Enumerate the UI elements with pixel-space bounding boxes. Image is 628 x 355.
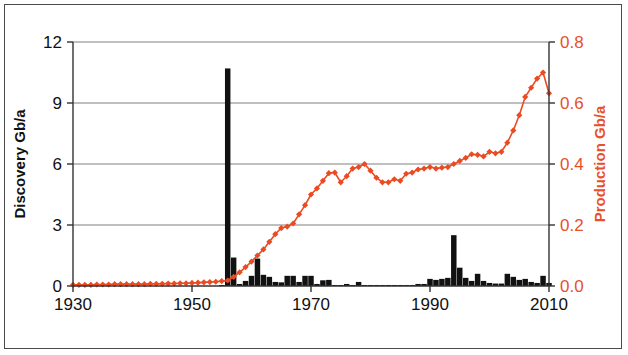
production-marker: [451, 161, 457, 167]
production-marker: [82, 282, 88, 288]
production-marker: [88, 282, 94, 288]
discovery-bar: [326, 280, 331, 286]
discovery-bar: [475, 274, 480, 286]
discovery-bar: [231, 258, 236, 286]
y-tick-label-left: 9: [53, 94, 62, 113]
discovery-bar: [451, 235, 456, 286]
y-tick-label-right: 0.2: [560, 216, 584, 235]
discovery-bar: [243, 281, 248, 286]
x-tick-label: 1970: [292, 295, 330, 314]
discovery-bar: [463, 278, 468, 286]
production-marker: [385, 179, 391, 185]
discovery-bar: [255, 259, 260, 286]
discovery-bar: [517, 280, 522, 286]
chart-plot-area: 0369120.00.20.40.60.81930195019701990201…: [0, 0, 628, 355]
discovery-bar: [267, 277, 272, 286]
chart-svg: 0369120.00.20.40.60.81930195019701990201…: [0, 0, 628, 355]
production-marker: [433, 165, 439, 171]
y-tick-label-left: 3: [53, 216, 62, 235]
production-polyline: [73, 73, 549, 285]
discovery-bar: [505, 274, 510, 286]
production-marker: [189, 280, 195, 286]
production-marker: [76, 282, 82, 288]
production-marker: [391, 176, 397, 182]
production-marker: [427, 164, 433, 170]
discovery-bar: [469, 281, 474, 286]
discovery-bar: [249, 276, 254, 286]
y-tick-label-left: 0: [53, 277, 62, 296]
production-marker: [475, 152, 481, 158]
discovery-bar: [439, 279, 444, 286]
production-marker: [415, 166, 421, 172]
x-tick-label: 1990: [411, 295, 449, 314]
production-marker: [492, 150, 498, 156]
y-tick-label-right: 0.6: [560, 94, 584, 113]
discovery-bar: [433, 280, 438, 286]
production-marker: [510, 127, 516, 133]
discovery-bar: [261, 275, 266, 286]
production-marker: [195, 280, 201, 286]
production-marker: [516, 112, 522, 118]
production-marker: [356, 164, 362, 170]
y-tick-label-left: 6: [53, 155, 62, 174]
production-marker: [201, 279, 207, 285]
production-marker: [439, 165, 445, 171]
axes: [67, 42, 555, 292]
discovery-bar: [457, 268, 462, 286]
discovery-bar: [427, 279, 432, 286]
discovery-bar: [302, 276, 307, 286]
chart-figure: 0369120.00.20.40.60.81930195019701990201…: [0, 0, 628, 355]
production-marker: [409, 169, 415, 175]
production-marker: [445, 164, 451, 170]
x-tick-label: 1950: [173, 295, 211, 314]
y-axis-title-left: Discovery Gb/a: [11, 109, 28, 219]
discovery-bar: [511, 277, 516, 286]
production-line-markers: [70, 69, 552, 287]
production-marker: [284, 223, 290, 229]
y-axis-title-right: Production Gb/a: [591, 105, 608, 222]
discovery-bar: [540, 276, 545, 286]
production-line-series: [73, 73, 549, 285]
production-marker: [219, 278, 225, 284]
production-marker: [457, 158, 463, 164]
discovery-bar: [225, 68, 230, 286]
production-marker: [207, 279, 213, 285]
x-tick-label: 2010: [530, 295, 568, 314]
y-tick-label-right: 0.8: [560, 33, 584, 52]
discovery-bars-series: [219, 68, 552, 286]
y-tick-label-right: 0.0: [560, 277, 584, 296]
discovery-bar: [522, 279, 527, 286]
production-marker: [421, 165, 427, 171]
y-tick-label-left: 12: [43, 33, 62, 52]
discovery-bar: [284, 276, 289, 286]
production-marker: [213, 279, 219, 285]
discovery-bar: [290, 276, 295, 286]
discovery-bar: [445, 278, 450, 286]
discovery-bar: [320, 280, 325, 286]
y-tick-label-right: 0.4: [560, 155, 584, 174]
x-tick-label: 1930: [54, 295, 92, 314]
tick-labels: 0369120.00.20.40.60.81930195019701990201…: [43, 33, 584, 314]
discovery-bar: [481, 281, 486, 286]
discovery-bar: [308, 276, 313, 286]
